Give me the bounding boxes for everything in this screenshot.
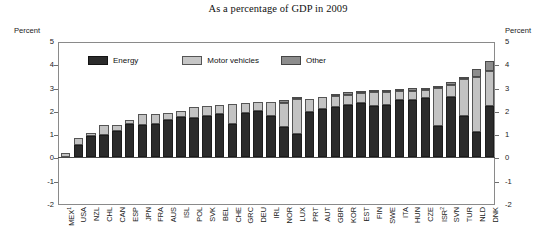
chart-title: As a percentage of GDP in 2009 [0, 3, 556, 14]
category-label-che: CHE [235, 207, 242, 223]
category-label-isl: ISL [183, 207, 190, 218]
bar-dnk [485, 61, 495, 158]
bar-gbr [331, 95, 341, 158]
bar-segment-energy [395, 100, 405, 157]
bar-segment-energy [86, 136, 96, 157]
bar-segment-other [369, 90, 379, 92]
right-axis-tick-label: 1 [505, 131, 519, 139]
bar-segment-motor-vehicles [356, 93, 366, 102]
bar-segment-energy [472, 132, 482, 158]
bar-segment-energy [189, 118, 199, 158]
category-axis-labels: MEX1USANZLCHLCANESPJPNFRAAUSISLPOLSVKBEL… [58, 207, 495, 241]
bar-segment-energy [241, 113, 251, 157]
legend-item-other: Other [281, 56, 326, 65]
right-axis-tick-label: 5 [505, 38, 519, 46]
category-label-nzl: NZL [93, 207, 100, 221]
left-axis-tick-label: 2 [40, 108, 54, 116]
bar-aut [318, 97, 328, 158]
chart-legend: Energy Motor vehicles Other [88, 54, 326, 67]
right-axis-tick-label: -1 [505, 178, 519, 186]
bar-segment-motor-vehicles [125, 120, 135, 123]
bar-segment-motor-vehicles [331, 96, 341, 108]
bar-segment-other [433, 86, 443, 88]
bar-segment-motor-vehicles [382, 92, 392, 105]
bar-segment-motor-vehicles [421, 90, 431, 98]
bar-pol [189, 107, 199, 157]
category-label-can: CAN [119, 207, 126, 223]
legend-label-energy: Energy [113, 56, 138, 65]
category-label-chl: CHL [106, 207, 113, 222]
bar-segment-motor-vehicles [86, 133, 96, 136]
legend-item-energy: Energy [88, 56, 138, 65]
category-label-usa: USA [80, 207, 87, 222]
left-axis-tick-label: -1 [40, 178, 54, 186]
bar-ita [395, 89, 405, 158]
bar-segment-energy [266, 116, 276, 158]
footnote-marker: 1 [66, 207, 72, 210]
category-label-hun: HUN [414, 207, 421, 223]
bar-segment-motor-vehicles [433, 88, 443, 126]
bar-irl [266, 102, 276, 158]
bar-esp [125, 120, 135, 157]
bar-isl [176, 111, 186, 158]
bar-grc [241, 103, 251, 158]
bar-segment-energy [343, 105, 353, 157]
bar-segment-energy [176, 117, 186, 158]
bar-segment-motor-vehicles [279, 103, 289, 127]
category-label-fra: FRA [157, 207, 164, 222]
bar-segment-motor-vehicles [459, 79, 469, 115]
bar-segment-energy [112, 131, 122, 158]
bar-hun [408, 88, 418, 158]
bar-segment-motor-vehicles [112, 125, 122, 131]
bar-segment-energy [292, 134, 302, 157]
bar-isr [433, 86, 443, 157]
bar-segment-motor-vehicles [485, 71, 495, 106]
bar-lux [292, 97, 302, 158]
right-axis-tick-label: -2 [505, 201, 519, 209]
bar-fra [151, 114, 161, 157]
bar-segment-motor-vehicles [215, 105, 225, 114]
bar-segment-other [331, 94, 341, 96]
bar-tur [459, 78, 469, 157]
axis-tick-mark [495, 135, 499, 136]
right-axis-tick-label: 3 [505, 85, 519, 93]
bar-bel [215, 105, 225, 157]
bar-segment-other [472, 69, 482, 77]
bar-che [228, 104, 238, 158]
bar-segment-motor-vehicles [163, 113, 173, 120]
bar-segment-other [343, 92, 353, 94]
bar-segment-energy [382, 105, 392, 157]
bar-segment-energy [318, 109, 328, 158]
bar-svk [202, 106, 212, 157]
category-label-grc: GRC [247, 207, 254, 223]
left-axis-tick-label: 3 [40, 85, 54, 93]
bar-segment-other [446, 82, 456, 85]
bar-segment-other [382, 90, 392, 92]
category-label-nld: NLD [479, 207, 486, 222]
bar-segment-energy [305, 112, 315, 157]
right-axis-tick-label: 0 [505, 155, 519, 163]
category-label-mex: MEX1 [67, 207, 76, 226]
bar-segment-motor-vehicles [176, 111, 186, 117]
bar-segment-other [421, 88, 431, 90]
bar-segment-energy [408, 100, 418, 157]
bar-segment-motor-vehicles [408, 91, 418, 100]
left-axis-tick-label: 1 [40, 131, 54, 139]
bar-segment-energy [433, 126, 443, 157]
category-label-esp: ESP [132, 207, 139, 222]
category-label-aus: AUS [170, 207, 177, 222]
bar-segment-other [292, 97, 302, 99]
bar-segment-energy [151, 124, 161, 158]
legend-swatch-energy-icon [88, 56, 108, 65]
bar-segment-energy [74, 145, 84, 158]
category-label-svk: SVK [209, 207, 216, 222]
bar-chl [99, 125, 109, 158]
legend-swatch-other-icon [281, 56, 301, 65]
bar-segment-other [356, 91, 366, 93]
bar-nor [279, 100, 289, 157]
bar-segment-energy [279, 127, 289, 157]
legend-item-motor-vehicles: Motor vehicles [182, 56, 259, 65]
bar-kor [343, 92, 353, 157]
bar-segment-energy [163, 120, 173, 157]
category-label-pol: POL [196, 207, 203, 222]
